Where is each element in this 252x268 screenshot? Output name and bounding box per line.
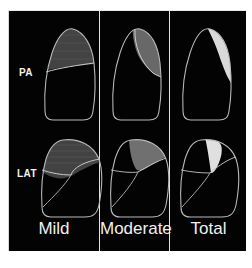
lung-severity-figure: PA LAT (0, 0, 252, 268)
lung-diagram-pa-moderate (109, 25, 167, 125)
lung-diagram-lat-total (177, 137, 243, 223)
shaded-region (133, 27, 162, 77)
lung-diagram-pa-mild (39, 25, 101, 125)
oblique-fissure-lower (112, 172, 138, 207)
column-caption-moderate: Moderate (100, 219, 169, 239)
row-label-pa: PA (19, 67, 33, 78)
minor-fissure (111, 170, 138, 172)
lung-diagram-pa-total (179, 25, 237, 125)
lung-diagram-lat-mild (37, 137, 107, 223)
lung-diagram-lat-moderate (107, 137, 173, 223)
minor-fissure (181, 170, 210, 173)
column-caption-total: Total (170, 219, 247, 239)
shaded-region (129, 137, 165, 171)
imaging-panel: PA LAT (8, 10, 246, 251)
column-caption-mild: Mild (9, 219, 99, 239)
row-label-lat: LAT (17, 168, 37, 179)
oblique-fissure-lower (43, 175, 71, 207)
oblique-fissure-lower (182, 173, 210, 207)
